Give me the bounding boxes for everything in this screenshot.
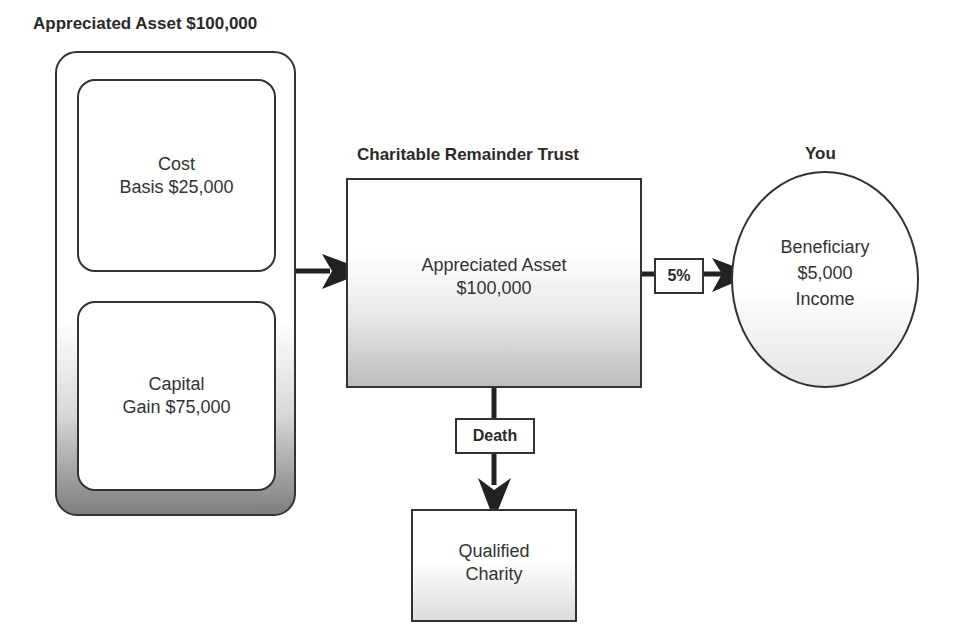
qualified-charity-box: Qualified Charity: [411, 509, 577, 622]
beneficiary-line2: $5,000: [780, 260, 869, 286]
appreciated-asset-group: Cost Basis $25,000 Capital Gain $75,000: [55, 51, 296, 516]
asset-group-title: Appreciated Asset $100,000: [33, 14, 257, 34]
charity-line1: Qualified: [458, 540, 529, 563]
charity-line2: Charity: [458, 563, 529, 586]
income-rate-tag: 5%: [654, 258, 704, 294]
cost-basis-box: Cost Basis $25,000: [77, 79, 276, 272]
trust-line2: $100,000: [421, 277, 566, 300]
beneficiary-circle: Beneficiary $5,000 Income: [731, 171, 919, 388]
capital-gain-box: Capital Gain $75,000: [77, 301, 276, 491]
cost-basis-line1: Cost: [119, 153, 233, 176]
capital-gain-line2: Gain $75,000: [122, 396, 230, 419]
death-tag: Death: [455, 418, 535, 454]
beneficiary-line1: Beneficiary: [780, 234, 869, 260]
trust-line1: Appreciated Asset: [421, 254, 566, 277]
beneficiary-line3: Income: [780, 286, 869, 312]
trust-title: Charitable Remainder Trust: [357, 145, 579, 165]
capital-gain-line1: Capital: [122, 373, 230, 396]
you-title: You: [805, 144, 836, 164]
cost-basis-line2: Basis $25,000: [119, 176, 233, 199]
charitable-remainder-trust-box: Appreciated Asset $100,000: [346, 178, 642, 388]
